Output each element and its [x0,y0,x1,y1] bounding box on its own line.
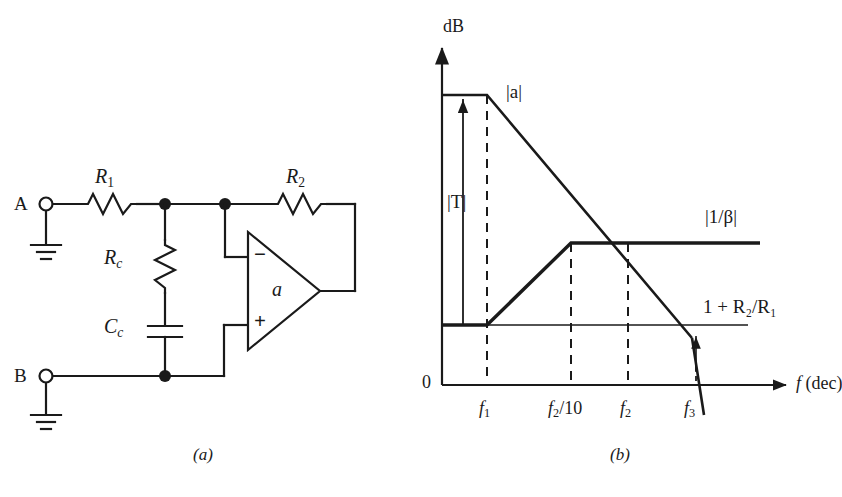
open-loop-gain-annotation: |a| [506,82,522,101]
y-axis-label: dB [443,17,464,35]
inverse-beta-annotation: |1/β| [705,207,737,226]
open-loop-gain-curve [442,95,692,338]
origin-label: 0 [422,373,431,391]
x-axis-label-unit: (dec) [801,373,842,393]
x-tick-label-f3: f3 [684,399,695,420]
tick-f1-sub: 1 [484,406,490,420]
x-tick-label-f2-over-10: f2/10 [548,399,582,420]
loop-gain-annotation: |T| [447,192,466,211]
panel-b-caption: (b) [610,445,630,465]
tick-f2d10-suffix: /10 [559,398,582,418]
tick-f2-sub: 2 [625,406,631,420]
x-tick-label-f2: f2 [620,399,631,420]
noise-gain-annotation: 1 + R₂/R₁ [703,297,777,316]
tick-f3-sub: 3 [689,406,695,420]
x-axis-label: f (dec) [796,374,842,392]
x-tick-label-f1: f1 [479,399,490,420]
